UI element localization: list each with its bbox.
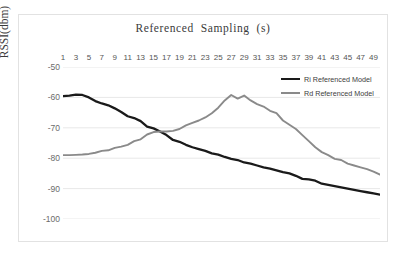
x-axis-tick-label: 39: [304, 53, 313, 62]
x-axis-tick-label: 35: [279, 53, 288, 62]
x-axis-tick-label: 15: [149, 53, 158, 62]
x-axis-tick-label: 27: [227, 53, 236, 62]
legend-item[interactable]: Rd Referenced Model: [281, 87, 393, 99]
x-axis-tick-label: 13: [136, 53, 145, 62]
x-axis-tick-label: 25: [214, 53, 223, 62]
legend-line-icon: [281, 92, 300, 94]
y-axis-title: RSSI(dbm): [0, 0, 10, 97]
x-axis-tick-label: 43: [330, 53, 339, 62]
x-axis-tick-label: 7: [100, 53, 104, 62]
y-axis-tick-label: -100: [43, 214, 60, 224]
x-axis-tick-label: 41: [317, 53, 326, 62]
x-axis-tick-label: 11: [124, 53, 132, 62]
y-axis-tick-label: -70: [48, 123, 60, 133]
x-axis-tick-label: 45: [343, 53, 352, 62]
chart-root: Referenced Sampling (s) -50-60-70-80-90-…: [0, 0, 406, 257]
y-axis-tick-labels: -50-60-70-80-90-100: [30, 0, 60, 257]
x-axis-tick-label: 5: [87, 53, 91, 62]
x-axis-tick-label: 33: [266, 53, 275, 62]
x-axis-tick-labels: 1357911131517192123252729313335373941434…: [63, 53, 380, 65]
y-axis-tick-label: -50: [48, 62, 60, 72]
legend-label: Rd Referenced Model: [304, 89, 374, 98]
x-axis-tick-label: 17: [162, 53, 171, 62]
x-axis-tick-label: 29: [240, 53, 249, 62]
chart-title: Referenced Sampling (s): [18, 22, 388, 34]
x-axis-tick-label: 9: [113, 53, 117, 62]
x-axis-tick-label: 49: [369, 53, 378, 62]
legend-item[interactable]: Ri Referenced Model: [281, 73, 393, 85]
x-axis-tick-label: 31: [253, 53, 262, 62]
x-axis-tick-label: 47: [356, 53, 365, 62]
y-axis-tick-label: -80: [48, 153, 60, 163]
y-axis-tick-label: -60: [48, 92, 60, 102]
y-axis-tick-label: -90: [48, 184, 60, 194]
data-series-line: [63, 95, 380, 195]
x-axis-tick-label: 21: [188, 53, 197, 62]
legend-line-icon: [281, 78, 300, 80]
chart-legend: Ri Referenced ModelRd Referenced Model: [281, 73, 393, 101]
x-axis-tick-label: 1: [61, 53, 65, 62]
legend-label: Ri Referenced Model: [304, 75, 372, 84]
x-axis-tick-label: 3: [74, 53, 78, 62]
x-axis-tick-label: 37: [291, 53, 300, 62]
x-axis-tick-label: 23: [201, 53, 210, 62]
x-axis-tick-label: 19: [175, 53, 184, 62]
